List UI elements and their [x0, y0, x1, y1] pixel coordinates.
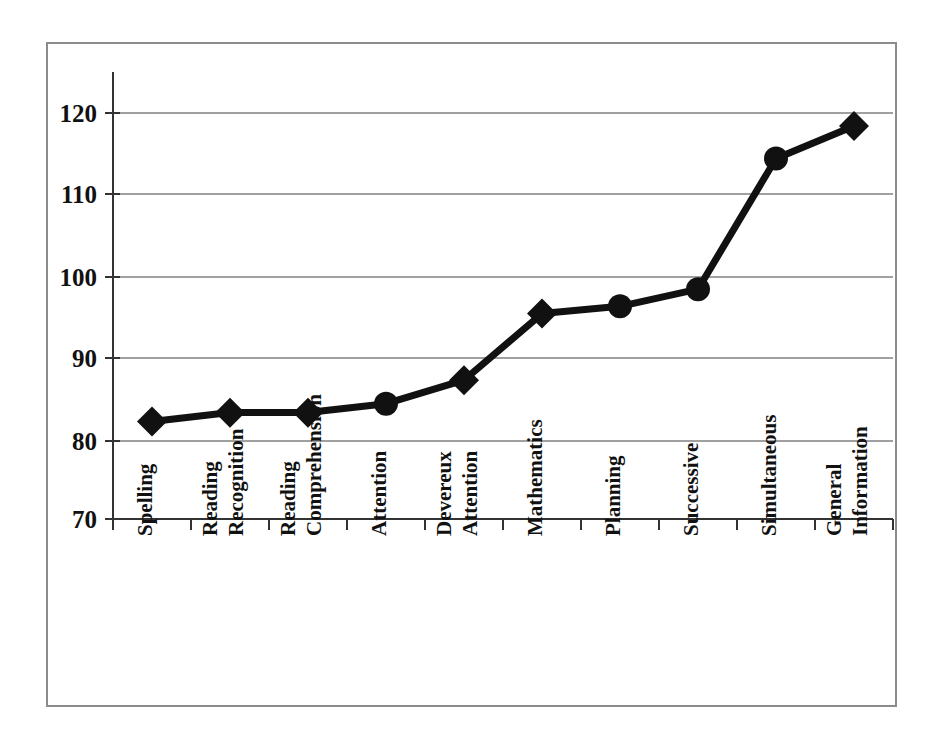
x-category-label: Recognition [224, 428, 248, 536]
y-tick-labels: 120 110 100 90 80 70 [60, 100, 98, 533]
data-point-marker[interactable] [608, 294, 632, 318]
x-category-label: Successive [679, 443, 703, 536]
x-category-label: Reading [198, 461, 222, 536]
data-point-marker[interactable] [137, 407, 167, 437]
figure-canvas: 120 110 100 90 80 70 SpellingReadingReco… [0, 0, 939, 742]
x-category-label: Simultaneous [757, 415, 781, 536]
x-category-label: Planning [601, 455, 625, 536]
data-point-marker[interactable] [839, 111, 869, 141]
x-category-label: Attention [458, 451, 482, 536]
y-axis [105, 72, 120, 519]
y-tick-label: 70 [72, 506, 97, 533]
x-category-label: General [822, 464, 846, 536]
x-category-label: Mathematics [523, 419, 547, 536]
x-category-label: Comprehension [302, 394, 326, 536]
data-point-marker[interactable] [764, 147, 788, 171]
y-tick-label: 110 [61, 181, 97, 208]
data-series[interactable] [137, 111, 869, 437]
x-category-label: Attention [367, 451, 391, 536]
x-category-label: Spelling [133, 463, 157, 536]
y-tick-label: 80 [72, 428, 97, 455]
y-tick-label: 90 [72, 345, 97, 372]
y-tick-label: 120 [60, 100, 98, 127]
data-point-marker[interactable] [374, 392, 398, 416]
x-category-label: Devereux [432, 451, 456, 536]
data-point-marker[interactable] [686, 277, 710, 301]
line-chart[interactable]: 120 110 100 90 80 70 SpellingReadingReco… [0, 0, 939, 742]
x-category-label: Reading [276, 461, 300, 536]
series-line [152, 126, 854, 422]
y-tick-label: 100 [60, 264, 98, 291]
series-markers[interactable] [137, 111, 869, 437]
data-point-marker[interactable] [215, 398, 245, 428]
x-category-label: Information [848, 426, 872, 536]
